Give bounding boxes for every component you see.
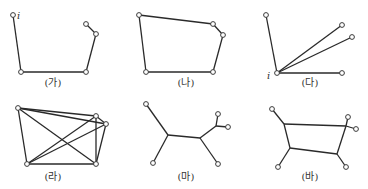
edge — [337, 126, 346, 154]
node — [270, 107, 275, 112]
edge — [284, 124, 290, 148]
edge — [18, 108, 96, 164]
node — [354, 127, 359, 132]
node — [84, 70, 89, 75]
node — [137, 13, 142, 18]
node — [211, 70, 216, 75]
edge — [277, 37, 352, 73]
node — [151, 161, 156, 166]
node — [226, 125, 231, 130]
graph-figures: (가) (나) (다) (라) (마) (바) i i — [0, 0, 368, 189]
edge — [290, 148, 337, 154]
node — [216, 162, 221, 167]
edge — [277, 25, 342, 73]
caption-ma: (마) — [178, 171, 195, 182]
node — [340, 71, 345, 76]
node — [104, 122, 109, 127]
edge — [213, 35, 223, 72]
edge — [200, 138, 218, 164]
edge — [27, 124, 106, 164]
caption-ba: (바) — [302, 171, 319, 182]
figure-na — [137, 13, 226, 75]
node — [144, 102, 149, 107]
node — [19, 70, 24, 75]
edge — [278, 148, 290, 167]
caption-na: (나) — [178, 77, 195, 88]
edge — [146, 104, 168, 135]
edge — [13, 15, 21, 72]
node — [94, 114, 99, 119]
caption-ra: (라) — [45, 171, 62, 182]
edge — [284, 124, 346, 126]
node — [25, 162, 30, 167]
node — [275, 71, 280, 76]
node — [16, 106, 21, 111]
node — [264, 13, 269, 18]
node — [346, 115, 351, 120]
edge — [139, 15, 146, 72]
edge — [18, 108, 27, 164]
figure-ra — [16, 106, 109, 167]
edge — [86, 34, 96, 72]
node — [221, 33, 226, 38]
figure-ma — [144, 102, 231, 167]
vertex-label-i-ga: i — [17, 10, 20, 21]
node — [340, 23, 345, 28]
node — [211, 22, 216, 27]
vertex-label-i-da: i — [267, 70, 270, 81]
node — [94, 32, 99, 37]
node — [344, 165, 349, 170]
node — [84, 22, 89, 27]
edge — [153, 135, 168, 163]
caption-ga: (가) — [45, 77, 62, 88]
edge — [168, 135, 200, 138]
edge — [96, 124, 106, 164]
node — [144, 70, 149, 75]
node — [350, 35, 355, 40]
node — [216, 112, 221, 117]
figure-ga — [11, 13, 99, 75]
edge — [266, 15, 277, 73]
figure-da — [264, 13, 355, 76]
caption-da: (다) — [302, 77, 319, 88]
edge — [139, 15, 213, 24]
node — [11, 13, 16, 18]
edge — [200, 126, 216, 138]
figure-ba — [270, 107, 359, 170]
node — [276, 165, 281, 170]
node — [94, 162, 99, 167]
